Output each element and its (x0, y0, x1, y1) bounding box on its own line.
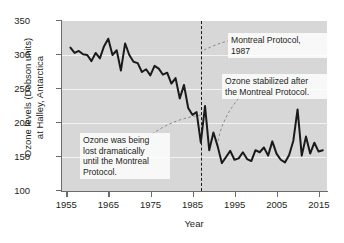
y-axis-line (61, 20, 62, 192)
x-tick-1955 (66, 192, 67, 197)
x-tick-label-1995: 1995 (215, 199, 255, 210)
y-tick-350 (56, 20, 61, 21)
leader-line-stable-annotation (215, 95, 243, 143)
y-tick-200 (56, 122, 61, 123)
x-axis-title-text: Year (184, 218, 203, 229)
annotation-ozone-stabilized: Ozone stabilized after the Montreal Prot… (222, 74, 340, 99)
y-tick-label-350: 350 (4, 15, 30, 26)
x-axis-title: Year (0, 218, 344, 229)
y-tick-100 (56, 190, 61, 191)
y-tick-150 (56, 156, 61, 157)
y-tick-label-100: 100 (4, 185, 30, 196)
y-axis-title-line1: Ozone levels (Dobson units) (22, 3, 34, 193)
annotation-ozone-lost: Ozone was being lost dramatically until … (80, 133, 170, 179)
x-tick-label-1975: 1975 (131, 199, 171, 210)
x-axis-line (61, 191, 328, 192)
y-axis-title-line2: at Halley, Antarctica (33, 3, 45, 193)
x-tick-label-1955: 1955 (46, 199, 86, 210)
x-tick-label-2015: 2015 (299, 199, 339, 210)
ozone-line-chart: Ozone levels (Dobson units) at Halley, A… (0, 0, 344, 243)
x-tick-1985 (193, 192, 194, 197)
x-tick-label-1985: 1985 (173, 199, 213, 210)
x-tick-2015 (319, 192, 320, 197)
y-tick-label-200: 200 (4, 117, 30, 128)
y-tick-label-300: 300 (4, 49, 30, 60)
y-tick-label-250: 250 (4, 83, 30, 94)
x-tick-1975 (151, 192, 152, 197)
y-tick-label-150: 150 (4, 151, 30, 162)
leader-line-protocol-annotation (203, 38, 231, 52)
x-tick-1965 (108, 192, 109, 197)
y-tick-250 (56, 88, 61, 89)
y-tick-300 (56, 54, 61, 55)
x-tick-1995 (235, 192, 236, 197)
annotation-montreal-protocol: Montreal Protocol, 1987 (228, 33, 334, 58)
x-tick-label-2005: 2005 (257, 199, 297, 210)
y-axis-title: Ozone levels (Dobson units) at Halley, A… (22, 3, 45, 193)
x-tick-2005 (277, 192, 278, 197)
x-tick-label-1965: 1965 (88, 199, 128, 210)
